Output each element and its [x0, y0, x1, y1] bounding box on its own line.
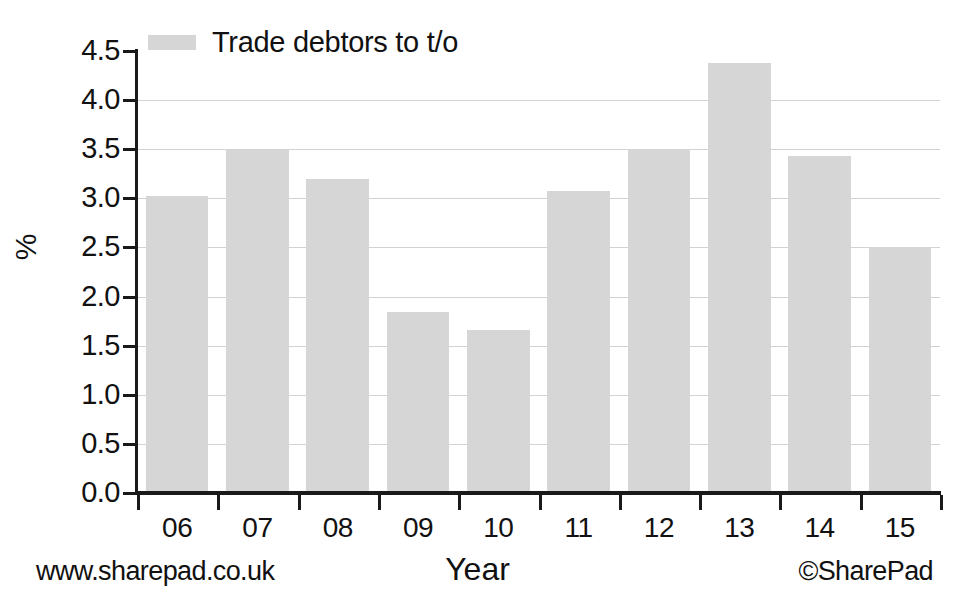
chart-legend: Trade debtors to t/o — [148, 28, 458, 57]
y-tick-label: 2.0 — [40, 282, 120, 311]
x-tick-label: 13 — [709, 512, 769, 544]
x-tick — [137, 495, 140, 510]
y-tick-label: 0.5 — [40, 429, 120, 458]
legend-swatch-trade-debtors — [148, 35, 196, 50]
x-tick-label: 12 — [629, 512, 689, 544]
x-tick — [619, 495, 622, 510]
x-tick-label: 11 — [549, 512, 609, 544]
bar — [467, 330, 530, 493]
footer-copyright: ©SharePad — [798, 556, 933, 586]
bar — [306, 179, 369, 493]
x-tick — [217, 495, 220, 510]
x-tick-label: 10 — [468, 512, 528, 544]
y-tick — [123, 246, 136, 249]
y-tick — [123, 492, 136, 495]
x-tick — [458, 495, 461, 510]
bar — [226, 150, 289, 493]
y-tick-label: 2.5 — [40, 232, 120, 261]
x-tick — [940, 495, 943, 510]
x-tick-label: 15 — [870, 512, 930, 544]
y-tick — [123, 394, 136, 397]
y-tick-label: 1.5 — [40, 331, 120, 360]
gridline — [137, 100, 940, 101]
legend-label-trade-debtors: Trade debtors to t/o — [212, 28, 458, 57]
footer-website: www.sharepad.co.uk — [36, 556, 274, 586]
y-tick-label: 3.5 — [40, 134, 120, 163]
y-tick-label: 4.0 — [40, 85, 120, 114]
x-tick — [378, 495, 381, 510]
bar — [628, 149, 691, 493]
y-axis-spine — [135, 49, 138, 495]
y-tick — [123, 99, 136, 102]
y-tick-label: 3.0 — [40, 183, 120, 212]
x-tick-label: 07 — [227, 512, 287, 544]
x-tick — [539, 495, 542, 510]
x-tick-label: 08 — [308, 512, 368, 544]
bar — [869, 247, 932, 493]
bar — [387, 312, 450, 493]
y-axis-title: % — [11, 217, 41, 277]
y-tick — [123, 148, 136, 151]
y-tick — [123, 50, 136, 53]
y-tick — [123, 197, 136, 200]
y-tick-label: 0.0 — [40, 478, 120, 507]
x-tick — [779, 495, 782, 510]
x-tick — [298, 495, 301, 510]
y-tick — [123, 443, 136, 446]
plot-area — [137, 51, 940, 493]
bar — [547, 191, 610, 493]
x-tick — [699, 495, 702, 510]
x-tick-label: 09 — [388, 512, 448, 544]
bar — [146, 196, 209, 493]
x-tick-label: 14 — [790, 512, 850, 544]
y-tick-label: 1.0 — [40, 380, 120, 409]
x-tick — [860, 495, 863, 510]
y-tick — [123, 345, 136, 348]
y-tick-label: 4.5 — [40, 36, 120, 65]
x-tick-label: 06 — [147, 512, 207, 544]
y-tick — [123, 296, 136, 299]
bar — [708, 63, 771, 493]
bar — [788, 156, 851, 493]
chart-container: 0.00.51.01.52.02.53.03.54.04.5 060708091… — [0, 0, 955, 608]
